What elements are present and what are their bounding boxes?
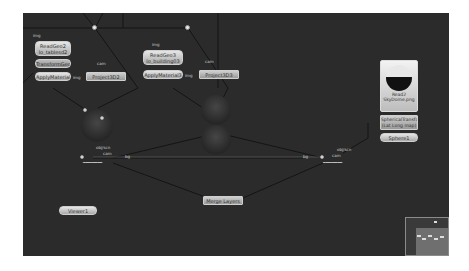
minimap-node (422, 238, 426, 240)
minimap-node (434, 221, 437, 223)
pipe-label-img: img (185, 73, 193, 78)
pipe-label-bg: bg (303, 154, 308, 159)
pipe-label-cam: cam (332, 153, 341, 158)
graph-minimap[interactable] (405, 217, 449, 256)
input-dot[interactable] (83, 108, 87, 112)
minimap-node (428, 235, 432, 237)
dot-node-2[interactable] (185, 25, 190, 30)
pipe-label-obj-scn: obj/scn (337, 147, 351, 152)
minimap-node (434, 238, 438, 240)
minimap-node (417, 235, 421, 237)
node-project3d2[interactable]: Project3D2 (86, 72, 126, 81)
node-sphere1[interactable]: Sphere1 (380, 133, 418, 142)
pipe-label-cam: cam (103, 151, 112, 156)
node-viewer1[interactable]: Viewer1 (59, 206, 97, 215)
node-graph-canvas[interactable]: img ReadGeo2 lo_tablesd2 TransformGeo2 A… (23, 13, 449, 256)
skydome-thumbnail (386, 65, 412, 91)
pipe-label-img: img (33, 33, 41, 38)
node-readgeo3-file: lo_building03 (144, 58, 182, 64)
node-project3d3[interactable]: Project3D3 (199, 70, 239, 79)
node-spherical-transform-subtitle: (Lat Long map) (381, 123, 417, 129)
pipe-label-cam: cam (97, 61, 106, 66)
node-read2[interactable]: Read2 SkyDome.png (380, 60, 418, 112)
render-input-dot[interactable] (320, 155, 324, 159)
dot-node-1[interactable] (92, 25, 97, 30)
pipe-label-img: img (152, 42, 160, 47)
render-input-dot[interactable] (80, 155, 84, 159)
pipe-label-img: img (73, 75, 81, 80)
render-node-right[interactable]: ━━━━━━━━ (323, 160, 342, 165)
pipe-label-cam: cam (205, 59, 214, 64)
scene-node-left[interactable] (81, 110, 113, 142)
node-readgeo2[interactable]: ReadGeo2 lo_tablesd2 (35, 41, 71, 56)
node-readgeo2-file: lo_tablesd2 (36, 49, 70, 55)
pipe-label-bg: bg (125, 154, 130, 159)
node-applymaterial2[interactable]: ApplyMaterial2 (35, 72, 71, 81)
render-node-left[interactable]: ━━━━━━━━ (83, 160, 102, 165)
minimap-viewport[interactable] (416, 228, 448, 255)
node-readgeo3[interactable]: ReadGeo3 lo_building03 (143, 50, 183, 65)
minimap-node (440, 236, 444, 238)
node-applymaterial3[interactable]: ApplyMaterial3 (143, 70, 183, 79)
scene-node-right-lower[interactable] (201, 125, 231, 155)
pipe-label-obj-scn: obj/scn (96, 145, 110, 150)
node-read2-file: SkyDome.png (381, 97, 417, 102)
input-dot[interactable] (100, 116, 104, 120)
node-transformgeo2[interactable]: TransformGeo2 (35, 59, 71, 68)
scene-node-right-upper[interactable] (201, 95, 231, 125)
node-merge-layers[interactable]: Merge Layers (203, 196, 243, 205)
node-spherical-transform[interactable]: SphericalTransform (Lat Long map) (380, 115, 418, 130)
